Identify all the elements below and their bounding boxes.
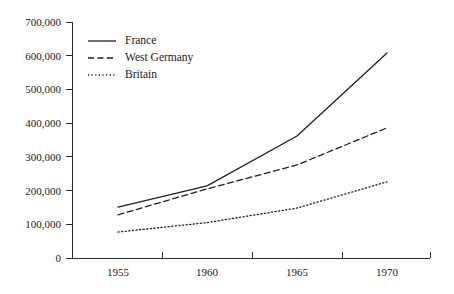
chart-canvas: 0100,000200,000300,000400,000500,000600,… xyxy=(0,0,454,294)
x-tick-label: 1960 xyxy=(196,266,219,278)
y-tick-label: 300,000 xyxy=(25,151,61,163)
y-tick-label: 700,000 xyxy=(25,16,61,28)
x-tick-label: 1955 xyxy=(107,266,130,278)
y-tick-label: 0 xyxy=(56,252,62,264)
line-chart: 0100,000200,000300,000400,000500,000600,… xyxy=(0,0,454,294)
series-group xyxy=(118,53,387,232)
legend-label-britain: Britain xyxy=(125,68,157,80)
y-tick-label: 200,000 xyxy=(25,185,61,197)
y-tick-label: 600,000 xyxy=(25,50,61,62)
y-tick-label: 100,000 xyxy=(25,218,61,230)
x-tick-label: 1970 xyxy=(376,266,399,278)
chart-legend: FranceWest GermanyBritain xyxy=(88,34,194,80)
legend-label-west-germany: West Germany xyxy=(125,51,194,64)
series-line-france xyxy=(118,53,387,207)
y-tick-label: 500,000 xyxy=(25,83,61,95)
x-tick-label: 1965 xyxy=(286,266,309,278)
y-axis-ticks: 0100,000200,000300,000400,000500,000600,… xyxy=(25,16,72,264)
y-tick-label: 400,000 xyxy=(25,117,61,129)
legend-label-france: France xyxy=(125,34,156,46)
series-line-west-germany xyxy=(118,128,387,215)
x-axis-ticks: 1955196019651970 xyxy=(72,252,430,278)
series-line-britain xyxy=(118,182,387,232)
